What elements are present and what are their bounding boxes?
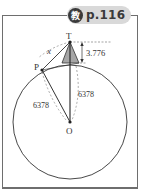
arrowhead-down-icon (80, 59, 83, 63)
arrowhead-up-icon (80, 42, 83, 46)
point-O (68, 120, 71, 123)
dashed-arc-left (42, 72, 66, 120)
label-x: x (46, 46, 51, 56)
label-P: P (34, 62, 39, 72)
label-radius-right: 6378 (78, 90, 94, 99)
point-P (40, 68, 43, 71)
label-radius-left: 6378 (33, 101, 49, 110)
label-T: T (66, 31, 72, 41)
earth-tangent-diagram: T P O x 3.776 6378 6378 (0, 0, 147, 196)
label-O: O (66, 126, 73, 136)
radius-OP (42, 70, 70, 122)
label-height: 3.776 (86, 48, 105, 58)
